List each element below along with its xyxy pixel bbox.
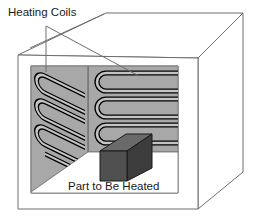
label-heating-coils: Heating Coils [8,6,77,18]
furnace-diagram: Heating Coils Part to Be Heated [0,0,257,222]
furnace-illustration: Heating Coils Part to Be Heated [0,0,257,222]
part-front-face [100,151,127,181]
label-part-to-be-heated: Part to Be Heated [68,180,159,192]
